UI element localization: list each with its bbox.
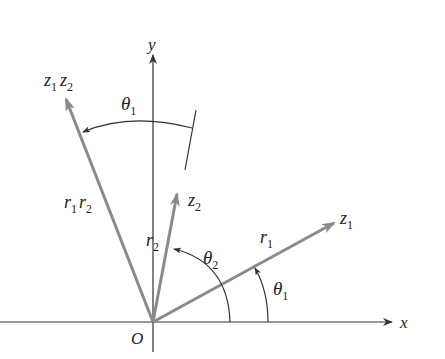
label-r1: r1 xyxy=(260,227,273,251)
label-z1z2: z1z2 xyxy=(43,70,73,94)
vector-z2 xyxy=(153,194,177,322)
arc-theta1 xyxy=(255,268,268,322)
label-r1r2: r1r2 xyxy=(64,192,92,216)
label-z2: z2 xyxy=(187,190,201,214)
origin-label: O xyxy=(131,329,143,348)
label-theta1-rotation: θ1 xyxy=(121,93,136,118)
y-axis-label: y xyxy=(146,35,156,54)
arc-theta1-rotation xyxy=(83,121,192,132)
vector-z1 xyxy=(153,223,334,322)
complex-multiplication-diagram: y x O z1z2 r1r2 z2 r2 z1 r1 θ1 θ2 θ1 xyxy=(0,0,445,359)
label-theta1: θ1 xyxy=(273,278,288,303)
x-axis-label: x xyxy=(399,313,408,332)
label-z1: z1 xyxy=(339,208,353,232)
label-r2: r2 xyxy=(146,230,159,254)
z2-direction-extension xyxy=(185,110,196,170)
arc-theta2 xyxy=(174,249,230,322)
